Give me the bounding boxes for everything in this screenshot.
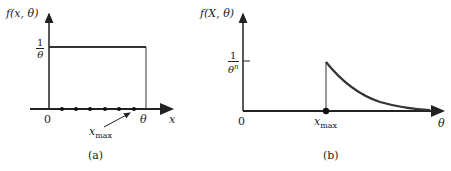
panel-a-origin-label: 0 <box>44 113 51 126</box>
panel-b-y-label: f(X, θ) <box>200 7 234 20</box>
xmax-point <box>323 108 329 114</box>
panel-a-uniform-density <box>49 47 146 109</box>
panel-b-origin-label: 0 <box>238 115 245 128</box>
panel-b-y-tick: 1 θn <box>228 50 239 75</box>
panel-a-y-tick: 1 θ <box>36 37 44 60</box>
panel-a-theta-tick: θ <box>140 113 147 126</box>
panel-b-likelihood-curve <box>326 62 430 111</box>
panel-b-xmax-label: xmax <box>314 115 337 130</box>
panel-b-axes <box>243 14 443 111</box>
panel-a-axes <box>30 14 172 109</box>
panel-a-x-label: x <box>169 113 175 126</box>
diagram-canvas <box>0 0 451 171</box>
panel-a-xmax-label: xmax <box>89 125 112 140</box>
panel-a-caption: (a) <box>88 149 103 162</box>
panel-b-caption: (b) <box>323 149 339 162</box>
panel-a-y-label: f(x, θ) <box>6 7 38 20</box>
panel-b-x-label: θ <box>438 117 445 130</box>
